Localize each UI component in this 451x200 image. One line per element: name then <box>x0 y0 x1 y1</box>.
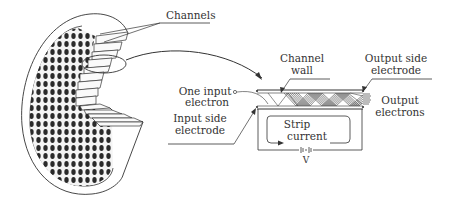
zoom-arrow <box>126 51 262 80</box>
input-electron-callout: One input electron <box>179 85 268 108</box>
channel-wall-label-line1: Channel <box>280 52 325 64</box>
input-electrode-callout: Input side electrode <box>168 108 256 144</box>
channel-cross-section: Strip current V <box>256 90 371 165</box>
output-electrons-label-line2: electrons <box>375 106 424 118</box>
battery-icon <box>301 147 311 153</box>
output-electrode-callout: Output side electrode <box>362 52 432 92</box>
input-electrode-label-line2: electrode <box>175 124 225 136</box>
strip-current-circuit: Strip current V <box>258 109 362 165</box>
microchannel-plate-disk <box>22 14 143 195</box>
output-electrode-label-line1: Output side <box>365 52 427 64</box>
input-electrode-label-line1: Input side <box>173 112 227 124</box>
output-electrons-label-line1: Output <box>381 94 419 106</box>
strip-label: Strip <box>284 118 311 130</box>
input-electron-label-line2: electron <box>185 96 229 108</box>
channels-label: Channels <box>166 9 216 21</box>
output-electron-stream <box>363 94 371 104</box>
voltage-label: V <box>302 155 310 165</box>
mcp-diagram: Channels <box>0 0 451 200</box>
channel-wall-label-line2: wall <box>291 64 314 76</box>
current-label: current <box>287 130 328 142</box>
output-electrode-label-line2: electrode <box>371 64 421 76</box>
channel-wall-callout: Channel wall <box>280 52 330 93</box>
electron-cascade <box>268 93 363 106</box>
